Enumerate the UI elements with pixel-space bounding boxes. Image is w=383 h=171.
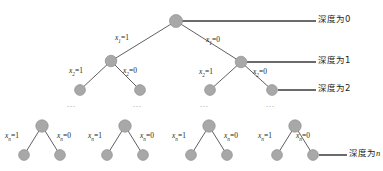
node-subtree3-leaf-left <box>186 150 197 161</box>
edge-label-xn-false-2: xn=0 <box>140 132 154 142</box>
node-subtree3-apex <box>203 120 215 132</box>
edge-label-x1-true: x1=1 <box>115 34 129 44</box>
node-subtree1-leaf-right <box>55 150 66 161</box>
node-subtree2-leaf-left <box>102 150 113 161</box>
node-level2-2 <box>135 85 146 96</box>
depth-label-n: 深度为n <box>349 149 380 158</box>
node-subtree1-leaf-left <box>19 150 30 161</box>
edge-label-xn-false-3: xn=0 <box>224 132 238 142</box>
ellipsis-2: ... <box>133 100 142 109</box>
edge-label-x2-true-right: x2=1 <box>199 68 213 78</box>
ellipsis-1: ... <box>67 100 76 109</box>
edge-label-x1-false: x1=0 <box>206 36 220 46</box>
depth-label-1: 深度为1 <box>318 56 350 65</box>
edge-label-xn-false-1: xn=0 <box>57 132 71 142</box>
node-subtree1-apex <box>36 120 48 132</box>
edge-l1b-left <box>210 62 241 90</box>
edge-label-x2-true-left: x2=1 <box>69 67 83 77</box>
node-subtree2-apex <box>119 120 131 132</box>
depth-label-2: 深度为2 <box>318 84 350 93</box>
edge-label-xn-true-3: xn=1 <box>172 132 186 142</box>
ellipsis-4: ... <box>266 100 275 109</box>
edge-label-x2-false-left: x2=0 <box>123 67 137 77</box>
node-level2-4 <box>267 85 278 96</box>
edge-label-xn-true-2: xn=1 <box>88 132 102 142</box>
edge-l1a-left <box>80 61 111 90</box>
node-level2-3 <box>205 85 216 96</box>
node-subtree2-leaf-right <box>138 150 149 161</box>
ellipsis-3: ... <box>200 100 209 109</box>
edge-label-xn-true-1: xn=1 <box>5 132 19 142</box>
node-root <box>170 15 183 28</box>
edge-label-x2-false-right: x2=0 <box>253 68 267 78</box>
depth-label-0: 深度为0 <box>318 15 350 24</box>
node-subtree3-leaf-right <box>222 150 233 161</box>
edge-label-xn-false-4: xn=0 <box>296 132 310 142</box>
node-subtree4-leaf-right <box>308 150 319 161</box>
node-level1-right <box>235 56 247 68</box>
edge-label-xn-true-4: xn=1 <box>258 132 272 142</box>
decision-tree-diagram: x1=1 x1=0 x2=1 x2=0 x2=1 x2=0 xn=1 xn=0 … <box>0 0 383 171</box>
node-level1-left <box>105 55 117 67</box>
node-subtree4-leaf-left <box>272 150 283 161</box>
node-level2-1 <box>75 85 86 96</box>
